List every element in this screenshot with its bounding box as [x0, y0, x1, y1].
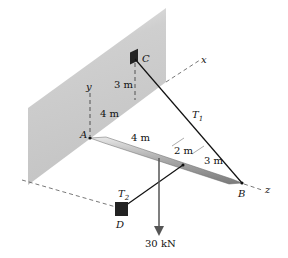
cable-t2 [122, 165, 183, 208]
ab-seg1-label: 4 m [131, 132, 151, 143]
c-height-label: 3 m [114, 79, 134, 90]
point-b-label: B [237, 188, 245, 199]
z-axis-label: z [264, 184, 271, 195]
x-axis-label: x [201, 54, 207, 65]
point-d-label: D [115, 219, 124, 230]
statics-diagram: x y z 3 m 4 m C T1 A B 4 m 2 m 3 m T2 D … [0, 0, 288, 258]
t1-label: T1 [192, 109, 203, 123]
arrow-down-icon [154, 226, 164, 236]
wall [28, 8, 166, 185]
point-a [88, 136, 91, 139]
wall-base-line [22, 180, 116, 207]
y-axis-label: y [85, 81, 92, 92]
ab-seg2-label: 2 m [174, 145, 194, 156]
ab-seg3-label: 3 m [204, 155, 224, 166]
dim-tick-2 [192, 146, 204, 154]
c-offset-label: 4 m [100, 108, 120, 119]
point-a-label: A [79, 129, 87, 140]
load-label: 30 kN [145, 238, 176, 249]
point-c-label: C [142, 53, 150, 64]
t2-label: T2 [118, 188, 130, 202]
bracket-d [115, 202, 128, 216]
point-b [240, 181, 243, 184]
x-axis [166, 60, 200, 82]
z-axis [244, 184, 262, 190]
t2-attach-point [182, 164, 185, 167]
